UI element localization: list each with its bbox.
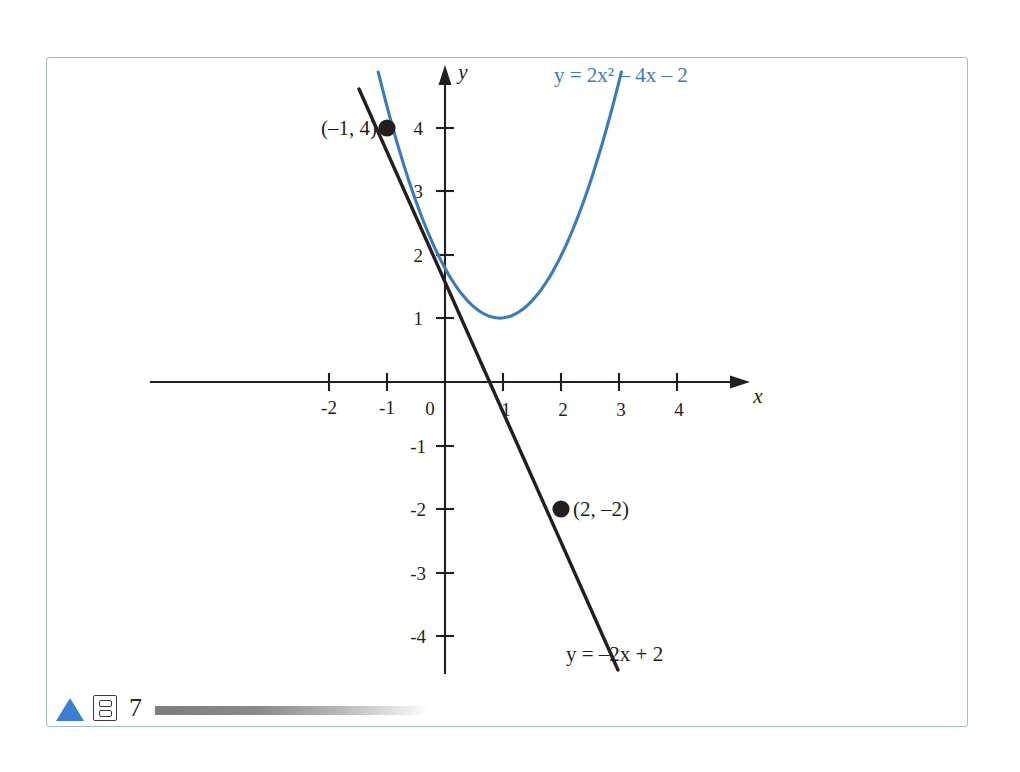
x-tick-label: 2: [558, 399, 568, 420]
y-tick-label: -3: [410, 563, 426, 584]
y-tick-label: -2: [410, 499, 426, 520]
x-axis-arrowhead: [730, 376, 750, 389]
y-tick-label: 2: [414, 245, 424, 266]
figure-area: -2 -1 1 2 3 4 4 3 2 1 -1 -2 -3 -4 0 x y: [46, 57, 968, 727]
point-label-b: (2, –2): [573, 497, 629, 521]
y-tick-label: -1: [410, 436, 426, 457]
footer-gradient-rule: [155, 706, 429, 715]
y-tick-label: 4: [414, 118, 424, 139]
y-tick-label: 1: [414, 308, 424, 329]
parabola-equation-label: y = 2x² – 4x – 2: [554, 63, 688, 87]
point-label-a: (–1, 4): [321, 116, 377, 140]
page-canvas: -2 -1 1 2 3 4 4 3 2 1 -1 -2 -3 -4 0 x y: [0, 0, 1020, 772]
x-tick-label: -1: [379, 397, 395, 418]
origin-label: 0: [425, 398, 435, 419]
x-axis-label: x: [752, 384, 763, 408]
y-axis-arrowhead: [439, 65, 452, 85]
y-tick-label: -4: [410, 626, 426, 647]
axes-group: [150, 65, 750, 674]
parabola-curve: [378, 72, 621, 318]
x-tick-label: -2: [321, 397, 337, 418]
figure-frame-icon: [93, 695, 117, 721]
y-axis-label: y: [456, 60, 468, 84]
triangle-icon: [56, 698, 84, 721]
coordinate-graph: -2 -1 1 2 3 4 4 3 2 1 -1 -2 -3 -4 0 x y: [46, 57, 968, 727]
x-tick-label: 4: [674, 399, 684, 420]
point-marker-b: [552, 500, 569, 517]
figure-icon-box-bottom: [99, 710, 112, 717]
figure-footer: 7: [56, 690, 429, 726]
line-curve: [359, 89, 618, 670]
figure-icon-box-top: [99, 700, 112, 707]
figure-number: 7: [129, 695, 142, 721]
x-tick-label: 3: [616, 399, 626, 420]
point-marker-a: [378, 119, 395, 136]
line-equation-label: y = –2x + 2: [566, 642, 663, 666]
